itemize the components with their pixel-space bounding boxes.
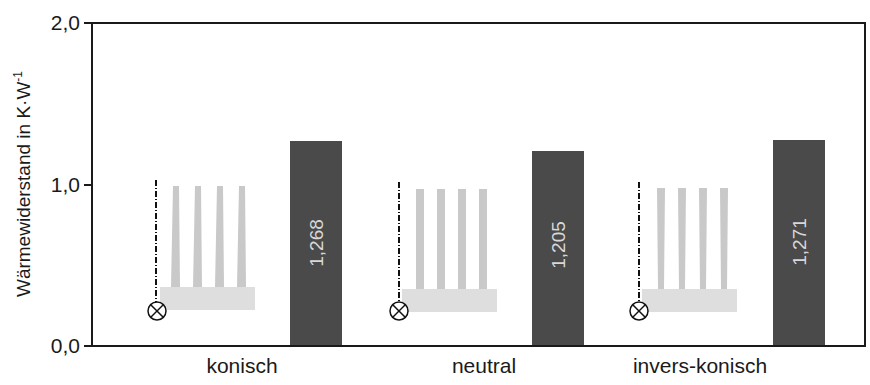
y-tick-label: 0,0: [51, 334, 80, 357]
bar-value-label: 1,268: [306, 219, 327, 267]
heat-sink-icon-konisch: [148, 180, 255, 320]
bar-value-label: 1,271: [789, 218, 810, 266]
x-category-label: invers-konisch: [633, 354, 767, 377]
heat-sink-icon-invers-konisch: [630, 182, 737, 320]
bar-value-label: 1,205: [548, 221, 569, 269]
x-category-label: neutral: [452, 354, 516, 377]
heat-source-icon: [148, 302, 166, 320]
heat-source-icon: [390, 302, 408, 320]
y-tick-label: 1,0: [51, 173, 80, 196]
heat-source-icon: [630, 302, 648, 320]
y-axis-label: Wärmewiderstand in K·W-1: [11, 71, 34, 297]
y-tick-label: 2,0: [51, 11, 80, 34]
heat-sink-icon-neutral: [390, 182, 497, 320]
bar-chart: 2,0 1,0 0,0 Wärmewiderstand in K·W-1 1,2…: [0, 0, 870, 385]
x-category-label: konisch: [206, 354, 277, 377]
